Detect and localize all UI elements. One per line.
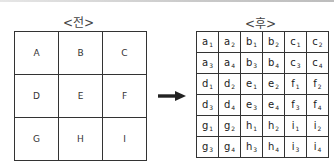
cell-subscript: 1 xyxy=(209,83,213,90)
cell-subscript: 1 xyxy=(297,41,301,48)
after-cell: i1 xyxy=(285,116,307,137)
after-grid-row: d1d2e1e2f1f2 xyxy=(197,74,329,95)
cell-letter: d xyxy=(224,99,230,110)
cell-letter: g xyxy=(202,120,208,131)
cell-subscript: 4 xyxy=(275,62,279,69)
cell-subscript: 3 xyxy=(253,146,257,153)
before-grid-row: A B C xyxy=(15,32,147,75)
after-cell: a1 xyxy=(197,32,219,53)
after-cell: c2 xyxy=(307,32,329,53)
after-cell: f4 xyxy=(307,95,329,116)
after-cell: h2 xyxy=(263,116,285,137)
after-cell: g2 xyxy=(219,116,241,137)
cell-letter: g xyxy=(224,120,230,131)
after-cell: c4 xyxy=(307,53,329,74)
top-border-line xyxy=(0,0,334,2)
cell-subscript: 1 xyxy=(253,83,257,90)
cell-subscript: 3 xyxy=(209,62,213,69)
cell-letter: g xyxy=(224,141,230,152)
cell-letter: e xyxy=(246,99,252,110)
after-cell: a2 xyxy=(219,32,241,53)
cell-letter: h xyxy=(246,120,252,131)
cell-letter: c xyxy=(290,57,296,68)
cell-letter: e xyxy=(268,78,274,89)
cell-letter: e xyxy=(246,78,252,89)
after-cell: i4 xyxy=(307,137,329,158)
cell-subscript: 3 xyxy=(253,104,257,111)
before-cell: H xyxy=(59,118,103,161)
cell-letter: b xyxy=(268,36,274,47)
cell-letter: d xyxy=(202,99,208,110)
after-cell: e1 xyxy=(241,74,263,95)
cell-subscript: 1 xyxy=(253,41,257,48)
after-title: <후> xyxy=(196,17,325,31)
cell-letter: b xyxy=(268,57,274,68)
after-cell: h3 xyxy=(241,137,263,158)
cell-subscript: 2 xyxy=(231,125,235,132)
after-cell: h1 xyxy=(241,116,263,137)
after-cell: e2 xyxy=(263,74,285,95)
cell-subscript: 4 xyxy=(319,62,323,69)
cell-subscript: 2 xyxy=(319,41,323,48)
after-cell: b2 xyxy=(263,32,285,53)
cell-subscript: 1 xyxy=(253,125,257,132)
cell-subscript: 3 xyxy=(209,146,213,153)
after-cell: b4 xyxy=(263,53,285,74)
cell-letter: a xyxy=(202,57,208,68)
cell-subscript: 4 xyxy=(317,146,321,153)
cell-subscript: 3 xyxy=(297,62,301,69)
cell-subscript: 1 xyxy=(296,83,300,90)
cell-letter: b xyxy=(246,36,252,47)
cell-subscript: 3 xyxy=(209,104,213,111)
after-cell: d2 xyxy=(219,74,241,95)
after-grid-row: g1g2h1h2i1i2 xyxy=(197,116,329,137)
after-grid-row: g3g4h3h4i3i4 xyxy=(197,137,329,158)
cell-subscript: 3 xyxy=(296,104,300,111)
before-cell: E xyxy=(59,75,103,118)
after-cell: e4 xyxy=(263,95,285,116)
before-grid-row: D E F xyxy=(15,75,147,118)
after-cell: c3 xyxy=(285,53,307,74)
cell-subscript: 2 xyxy=(318,83,322,90)
before-title: <전> xyxy=(14,16,143,30)
after-cell: g4 xyxy=(219,137,241,158)
cell-subscript: 1 xyxy=(209,125,213,132)
cell-subscript: 4 xyxy=(231,104,235,111)
cell-letter: a xyxy=(202,36,208,47)
cell-letter: e xyxy=(268,99,274,110)
after-cell: g3 xyxy=(197,137,219,158)
before-cell: D xyxy=(15,75,59,118)
after-cell: g1 xyxy=(197,116,219,137)
cell-subscript: 4 xyxy=(231,146,235,153)
after-cell: b3 xyxy=(241,53,263,74)
cell-subscript: 2 xyxy=(317,125,321,132)
after-grid-row: a3a4b3b4c3c4 xyxy=(197,53,329,74)
cell-subscript: 2 xyxy=(231,41,235,48)
cell-subscript: 3 xyxy=(295,146,299,153)
before-grid-row: G H I xyxy=(15,118,147,161)
after-cell: d3 xyxy=(197,95,219,116)
cell-letter: f xyxy=(291,99,295,110)
before-grid: A B C D E F G H I xyxy=(14,31,147,161)
cell-letter: a xyxy=(224,57,230,68)
cell-subscript: 4 xyxy=(318,104,322,111)
cell-subscript: 3 xyxy=(253,62,257,69)
cell-subscript: 4 xyxy=(275,104,279,111)
cell-subscript: 2 xyxy=(275,41,279,48)
cell-subscript: 2 xyxy=(275,83,279,90)
cell-letter: c xyxy=(312,36,318,47)
cell-subscript: 1 xyxy=(295,125,299,132)
after-cell: f3 xyxy=(285,95,307,116)
cell-letter: c xyxy=(290,36,296,47)
cell-letter: a xyxy=(224,36,230,47)
before-cell: F xyxy=(103,75,147,118)
before-cell: I xyxy=(103,118,147,161)
after-cell: d4 xyxy=(219,95,241,116)
cell-letter: h xyxy=(246,141,252,152)
after-cell: e3 xyxy=(241,95,263,116)
after-cell: f2 xyxy=(307,74,329,95)
cell-letter: f xyxy=(313,78,317,89)
after-grid-row: a1a2b1b2c1c2 xyxy=(197,32,329,53)
before-cell: C xyxy=(103,32,147,75)
cell-letter: c xyxy=(312,57,318,68)
